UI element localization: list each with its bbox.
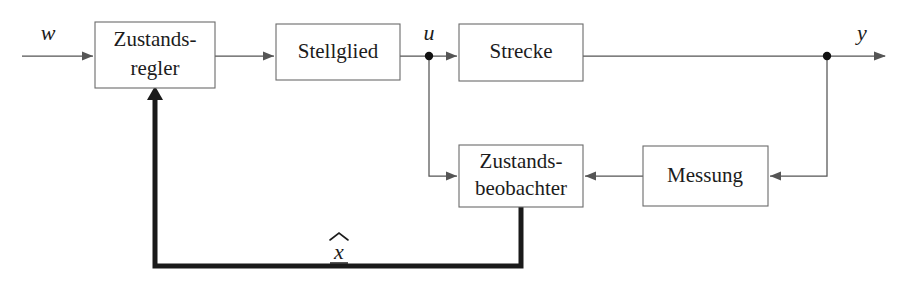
control-block-diagram: Zustands- regler Stellglied Strecke Zust… <box>0 0 920 283</box>
block-stellglied[interactable]: Stellglied <box>276 24 400 80</box>
block-diagram-canvas: Zustands- regler Stellglied Strecke Zust… <box>0 0 920 283</box>
block-zustandsbeobachter-label-line2: beobachter <box>475 176 567 200</box>
arrow-into-observer-left-icon <box>446 172 457 181</box>
block-zustandsbeobachter[interactable]: Zustands- beobachter <box>459 145 583 207</box>
signal-label-x-hat: x <box>330 233 348 264</box>
line-u-down-to-observer <box>429 56 457 176</box>
signal-label-w: w <box>41 20 56 45</box>
signal-label-y: y <box>855 20 867 45</box>
arrow-into-observer-right-icon <box>585 172 596 181</box>
line-y-down-to-messung <box>770 56 827 176</box>
block-messung[interactable]: Messung <box>643 146 768 206</box>
block-zustandsregler[interactable]: Zustands- regler <box>95 22 215 88</box>
arrow-into-messung-icon <box>770 172 781 181</box>
block-strecke-label: Strecke <box>490 39 553 63</box>
block-zustandsregler-label-line2: regler <box>131 56 180 80</box>
block-strecke[interactable]: Strecke <box>459 24 583 81</box>
junction-dot-u <box>425 52 433 60</box>
block-zustandsbeobachter-label-line1: Zustands- <box>480 149 563 173</box>
junction-dot-y <box>823 52 831 60</box>
signal-label-x-hat-glyph: x <box>333 239 344 264</box>
signal-label-u: u <box>424 20 435 45</box>
arrow-y-output-icon <box>874 52 886 61</box>
block-zustandsregler-label-line1: Zustands- <box>114 27 197 51</box>
arrow-into-regler-icon <box>82 52 93 61</box>
block-stellglied-label: Stellglied <box>298 39 379 63</box>
arrow-into-strecke-icon <box>446 52 457 61</box>
block-messung-label: Messung <box>667 163 743 187</box>
arrow-into-stellglied-icon <box>263 52 274 61</box>
